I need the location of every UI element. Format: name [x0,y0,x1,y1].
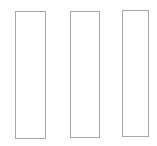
column-placeholder-2[interactable] [70,11,100,138]
column-placeholder-2-content [71,12,99,137]
column-placeholder-3[interactable] [122,10,149,137]
page-canvas [0,0,157,146]
column-placeholder-1-content [16,12,45,138]
column-placeholder-1[interactable] [15,11,46,139]
column-placeholder-3-content [123,11,148,136]
